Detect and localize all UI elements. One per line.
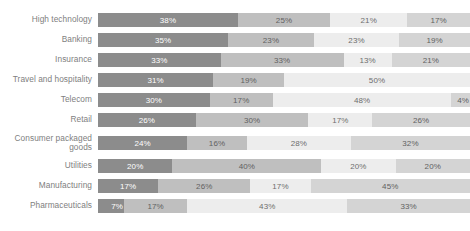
- bar-segment: 17%: [308, 113, 372, 127]
- bar-segment: 38%: [98, 13, 238, 27]
- bar-segment: 17%: [124, 199, 187, 213]
- stacked-bar: 30%17%48%4%: [98, 93, 470, 107]
- segment-value-label: 19%: [426, 36, 442, 45]
- bar-segment: 21%: [392, 53, 470, 67]
- row-label-line1: Travel and hospitality: [13, 74, 92, 84]
- chart-row: Utilities20%40%20%20%: [0, 159, 470, 173]
- chart-row: Banking35%23%23%19%: [0, 33, 470, 47]
- stacked-bar: 31%19%50%: [98, 73, 470, 87]
- stacked-bar: 7%17%43%33%: [98, 199, 470, 213]
- bar-segment: 20%: [321, 159, 395, 173]
- segment-value-label: 48%: [354, 96, 370, 105]
- row-label-line1: Utilities: [65, 160, 92, 170]
- segment-value-label: 43%: [259, 202, 275, 211]
- segment-value-label: 13%: [360, 56, 376, 65]
- bar-segment: 48%: [273, 93, 452, 107]
- segment-value-label: 25%: [276, 16, 292, 25]
- row-label-line1: Insurance: [55, 54, 92, 64]
- stacked-bar: 35%23%23%19%: [98, 33, 470, 47]
- bar-segment: 26%: [158, 179, 250, 193]
- bar-segment: 23%: [314, 33, 400, 47]
- segment-value-label: 20%: [425, 162, 441, 171]
- row-label-line2: goods: [0, 143, 92, 152]
- segment-value-label: 31%: [148, 76, 164, 85]
- bar-segment: 26%: [98, 113, 196, 127]
- chart-row: Manufacturing17%26%17%45%: [0, 179, 470, 193]
- segment-value-label: 23%: [348, 36, 364, 45]
- segment-value-label: 30%: [146, 96, 162, 105]
- chart-row: Pharmaceuticals7%17%43%33%: [0, 199, 470, 213]
- row-label-line1: Retail: [70, 114, 92, 124]
- bar-segment: 21%: [330, 13, 407, 27]
- bar-segment: 33%: [347, 199, 470, 213]
- bar-segment: 23%: [228, 33, 314, 47]
- bar-segment: 20%: [98, 159, 172, 173]
- bar-segment: 28%: [247, 136, 351, 150]
- bar-segment: 17%: [210, 93, 273, 107]
- bar-segment: 33%: [98, 53, 221, 67]
- bar-segment: 13%: [344, 53, 392, 67]
- stacked-bar: 20%40%20%20%: [98, 159, 470, 173]
- row-label-utilities: Utilities: [0, 161, 98, 170]
- chart-row: Consumer packagedgoods24%16%28%32%: [0, 133, 470, 153]
- row-label-travel-and-hospitality: Travel and hospitality: [0, 75, 98, 84]
- bar-segment: 43%: [187, 199, 347, 213]
- row-label-line1: Pharmaceuticals: [30, 200, 92, 210]
- row-label-telecom: Telecom: [0, 95, 98, 104]
- row-label-manufacturing: Manufacturing: [0, 181, 98, 190]
- row-label-retail: Retail: [0, 115, 98, 124]
- row-label-line1: Manufacturing: [39, 180, 92, 190]
- segment-value-label: 17%: [332, 116, 348, 125]
- segment-value-label: 26%: [139, 116, 155, 125]
- bar-segment: 33%: [221, 53, 344, 67]
- row-label-line1: Telecom: [61, 94, 92, 104]
- bar-segment: 17%: [98, 179, 158, 193]
- chart-row: Insurance33%33%13%21%: [0, 53, 470, 67]
- segment-value-label: 17%: [272, 182, 288, 191]
- chart-row: Telecom30%17%48%4%: [0, 93, 470, 107]
- segment-value-label: 30%: [244, 116, 260, 125]
- bar-segment: 7%: [98, 199, 124, 213]
- segment-value-label: 24%: [134, 139, 150, 148]
- segment-value-label: 4%: [457, 96, 469, 105]
- segment-value-label: 20%: [127, 162, 143, 171]
- row-label-line1: Banking: [62, 34, 92, 44]
- stacked-bar: 33%33%13%21%: [98, 53, 470, 67]
- bar-segment: 35%: [98, 33, 228, 47]
- segment-value-label: 19%: [240, 76, 256, 85]
- segment-value-label: 26%: [196, 182, 212, 191]
- row-label-insurance: Insurance: [0, 55, 98, 64]
- segment-value-label: 7%: [111, 202, 123, 211]
- chart-row: Travel and hospitality31%19%50%: [0, 73, 470, 87]
- bar-segment: 25%: [238, 13, 330, 27]
- segment-value-label: 38%: [160, 16, 176, 25]
- segment-value-label: 21%: [423, 56, 439, 65]
- segment-value-label: 26%: [413, 116, 429, 125]
- bar-segment: 31%: [98, 73, 213, 87]
- bar-segment: 20%: [396, 159, 470, 173]
- bar-segment: 32%: [351, 136, 470, 150]
- chart-rows: High technology38%25%21%17%Banking35%23%…: [0, 13, 470, 219]
- segment-value-label: 20%: [350, 162, 366, 171]
- bar-segment: 16%: [187, 136, 247, 150]
- segment-value-label: 33%: [151, 56, 167, 65]
- bar-segment: 19%: [213, 73, 284, 87]
- row-label-banking: Banking: [0, 35, 98, 44]
- bar-segment: 45%: [311, 179, 470, 193]
- segment-value-label: 28%: [291, 139, 307, 148]
- bar-segment: 40%: [172, 159, 321, 173]
- segment-value-label: 50%: [369, 76, 385, 85]
- bar-segment: 24%: [98, 136, 187, 150]
- bar-segment: 4%: [451, 93, 470, 107]
- bar-segment: 30%: [98, 93, 210, 107]
- stacked-bar-chart: High technology38%25%21%17%Banking35%23%…: [0, 0, 470, 231]
- stacked-bar: 17%26%17%45%: [98, 179, 470, 193]
- row-label-consumer-packaged: Consumer packagedgoods: [0, 134, 98, 152]
- segment-value-label: 16%: [209, 139, 225, 148]
- stacked-bar: 26%30%17%26%: [98, 113, 470, 127]
- segment-value-label: 33%: [274, 56, 290, 65]
- chart-row: High technology38%25%21%17%: [0, 13, 470, 27]
- bar-segment: 19%: [399, 33, 470, 47]
- segment-value-label: 35%: [155, 36, 171, 45]
- segment-value-label: 32%: [402, 139, 418, 148]
